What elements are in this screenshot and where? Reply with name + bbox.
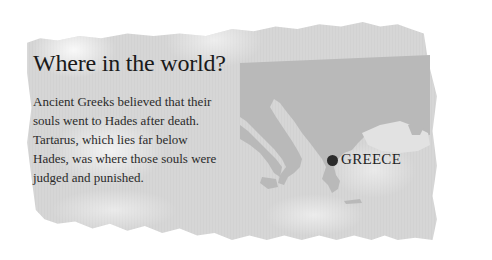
land-europe-icon <box>240 55 430 185</box>
description-line: souls went to Hades after death. <box>33 113 199 128</box>
land-greece-icon <box>322 167 340 193</box>
land-crete-icon <box>344 199 362 204</box>
map-label-greece: GREECE <box>341 151 401 168</box>
description-line: Hades, was where those souls were <box>33 151 216 166</box>
description-line: judged and punished. <box>33 170 144 185</box>
description-text: Ancient Greeks believed that their souls… <box>33 92 233 187</box>
location-marker-icon <box>327 155 338 166</box>
description-line: Tartarus, which lies far below <box>33 132 188 147</box>
page-title: Where in the world? <box>33 50 226 77</box>
map-of-mediterranean <box>240 55 430 205</box>
land-sicily-icon <box>260 177 278 189</box>
description-line: Ancient Greeks believed that their <box>33 94 211 109</box>
